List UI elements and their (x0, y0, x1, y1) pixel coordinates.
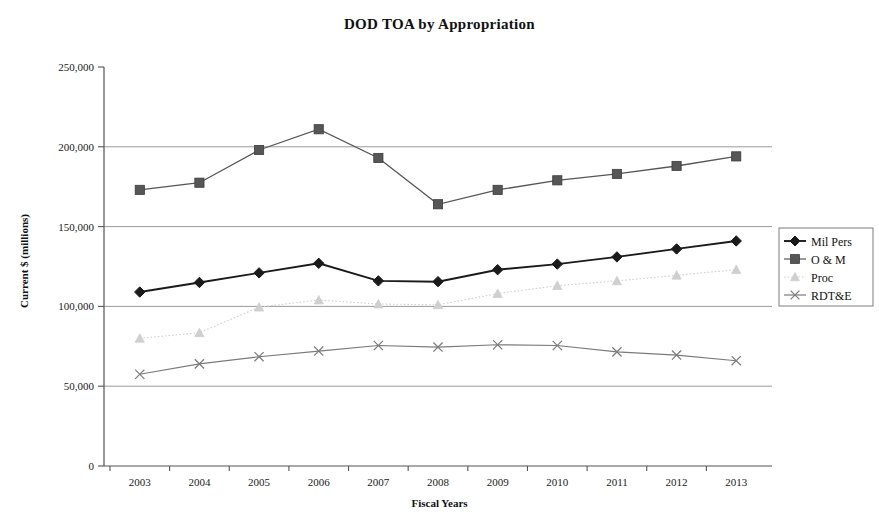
data-point (254, 268, 264, 278)
x-tick-label: 2009 (487, 476, 510, 488)
y-tick-label: 50,000 (64, 380, 95, 392)
chart-container: DOD TOA by Appropriation Current $ (mill… (0, 0, 879, 529)
data-point (553, 176, 562, 185)
y-tick-label: 200,000 (58, 141, 94, 153)
series-rdt-e (135, 340, 741, 379)
x-tick-label: 2013 (725, 476, 748, 488)
series-o-m (135, 125, 741, 209)
legend-marker (791, 255, 800, 264)
legend-label: O & M (811, 253, 846, 267)
y-tick-label: 0 (89, 460, 95, 472)
data-point (732, 265, 741, 274)
axes (104, 67, 772, 466)
data-point (135, 370, 144, 379)
x-axis-ticks: 2003200420052006200720082009201020112012… (110, 466, 748, 488)
series-mil-pers (135, 236, 742, 297)
data-point (732, 152, 741, 161)
data-point (135, 334, 144, 343)
x-tick-label: 2011 (606, 476, 628, 488)
data-point (314, 125, 323, 134)
data-point (314, 258, 324, 268)
data-point (493, 185, 502, 194)
x-tick-label: 2008 (427, 476, 450, 488)
data-point (612, 276, 621, 285)
x-tick-label: 2007 (367, 476, 390, 488)
legend-label: RDT&E (811, 289, 852, 303)
legend: Mil PersO & MProcRDT&E (779, 228, 873, 306)
data-point (553, 281, 562, 290)
legend-label: Proc (811, 271, 833, 285)
x-tick-label: 2006 (308, 476, 331, 488)
data-point (254, 145, 263, 154)
data-point (135, 287, 145, 297)
data-point (135, 185, 144, 194)
x-tick-label: 2010 (546, 476, 569, 488)
x-tick-label: 2005 (248, 476, 271, 488)
x-tick-label: 2004 (188, 476, 211, 488)
plot-area: 050,000100,000150,000200,000250,000 2003… (0, 0, 879, 529)
data-point (671, 244, 681, 254)
y-tick-label: 150,000 (58, 221, 94, 233)
legend-label: Mil Pers (811, 235, 852, 249)
y-axis-ticks: 050,000100,000150,000200,000250,000 (58, 61, 104, 472)
data-point (433, 200, 442, 209)
data-point (373, 276, 383, 286)
data-point (194, 277, 204, 287)
data-point (374, 153, 383, 162)
data-series-layer (135, 125, 742, 379)
x-tick-label: 2012 (666, 476, 688, 488)
data-point (612, 252, 622, 262)
data-point (492, 264, 502, 274)
data-point (731, 236, 741, 246)
data-point (672, 161, 681, 170)
data-point (254, 303, 263, 312)
data-point (195, 328, 204, 337)
series-line (140, 129, 736, 204)
y-tick-label: 100,000 (58, 300, 94, 312)
data-point (433, 276, 443, 286)
data-point (552, 259, 562, 269)
series-line (140, 345, 736, 375)
y-tick-label: 250,000 (58, 61, 94, 73)
data-point (612, 169, 621, 178)
x-tick-label: 2003 (129, 476, 152, 488)
data-point (195, 178, 204, 187)
